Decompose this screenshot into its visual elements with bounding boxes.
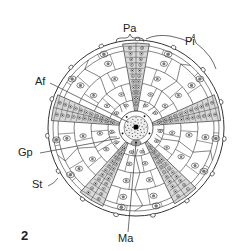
tubercle bbox=[145, 105, 147, 107]
periproct-plate bbox=[141, 132, 142, 133]
tubercle bbox=[214, 137, 218, 141]
periproct-plate bbox=[128, 135, 129, 136]
pore bbox=[133, 92, 134, 93]
tubercle bbox=[162, 62, 165, 65]
periproct-plate bbox=[132, 119, 133, 120]
pore bbox=[79, 117, 80, 118]
periproct-plate bbox=[129, 132, 130, 133]
pore bbox=[148, 147, 149, 148]
periproct-plate bbox=[135, 121, 136, 122]
tubercle bbox=[69, 173, 73, 177]
tubercle bbox=[141, 151, 143, 153]
tubercle bbox=[82, 135, 85, 138]
pore bbox=[136, 104, 137, 105]
pore bbox=[161, 159, 162, 160]
tubercle bbox=[55, 138, 59, 142]
tubercle bbox=[120, 205, 124, 209]
pore bbox=[107, 119, 108, 120]
pore bbox=[59, 102, 60, 103]
genital-pore bbox=[144, 115, 146, 117]
periproct-plate bbox=[146, 127, 147, 128]
pore bbox=[185, 112, 186, 113]
pore bbox=[141, 53, 142, 54]
pore bbox=[172, 172, 173, 173]
pore bbox=[90, 119, 91, 120]
tubercle bbox=[107, 62, 110, 65]
periproct-plate bbox=[127, 125, 128, 126]
tubercle bbox=[144, 162, 146, 164]
pore bbox=[181, 119, 182, 120]
periproct-plate bbox=[144, 132, 145, 133]
tubercle bbox=[106, 105, 108, 107]
figure-number: 2 bbox=[21, 229, 28, 242]
pore bbox=[175, 191, 176, 192]
pore bbox=[91, 187, 92, 188]
periproct-plate bbox=[132, 127, 133, 128]
periproct-plate bbox=[142, 126, 143, 127]
tubercle bbox=[148, 178, 151, 181]
periproct-plate bbox=[130, 124, 131, 125]
pore bbox=[56, 114, 57, 115]
label-ma: Ma bbox=[118, 233, 133, 244]
pore bbox=[105, 183, 106, 184]
periproct-plate bbox=[143, 135, 144, 136]
tubercle bbox=[65, 137, 68, 140]
pore bbox=[102, 117, 103, 118]
pore bbox=[96, 115, 97, 116]
pore bbox=[64, 104, 65, 105]
periproct-plate bbox=[143, 128, 144, 129]
tubercle bbox=[164, 105, 166, 107]
pore bbox=[175, 120, 176, 121]
tubercle bbox=[102, 52, 106, 56]
tubercle bbox=[79, 84, 82, 87]
pore bbox=[133, 87, 134, 88]
pore bbox=[95, 183, 96, 184]
periproct-plate bbox=[137, 137, 138, 138]
st-leader bbox=[48, 178, 58, 186]
pore bbox=[141, 47, 142, 48]
pore bbox=[209, 115, 210, 116]
pore bbox=[186, 118, 187, 119]
pore bbox=[183, 184, 184, 185]
pore bbox=[102, 174, 103, 175]
pore bbox=[140, 59, 141, 60]
pore bbox=[138, 81, 139, 82]
pore bbox=[170, 121, 171, 122]
spine-base bbox=[45, 133, 49, 138]
tubercle bbox=[128, 163, 130, 165]
genital-pore bbox=[126, 116, 128, 118]
tubercle bbox=[122, 195, 125, 198]
pore bbox=[157, 162, 158, 163]
pore bbox=[168, 167, 169, 168]
pore bbox=[132, 70, 133, 71]
tubercle bbox=[120, 93, 122, 95]
tubercle bbox=[177, 94, 180, 97]
tubercle bbox=[188, 134, 191, 137]
pore bbox=[111, 173, 112, 174]
pore bbox=[129, 47, 130, 48]
pore bbox=[67, 115, 68, 116]
pore bbox=[115, 156, 116, 157]
spine-base bbox=[150, 213, 155, 217]
pore bbox=[172, 186, 173, 187]
periproct-plate bbox=[137, 133, 138, 134]
pore bbox=[101, 193, 102, 194]
tubercle bbox=[113, 78, 116, 81]
pore bbox=[131, 64, 132, 65]
tubercle bbox=[155, 112, 157, 114]
pore bbox=[166, 176, 167, 177]
pore bbox=[108, 178, 109, 179]
pore bbox=[196, 108, 197, 109]
pore bbox=[91, 113, 92, 114]
pore bbox=[86, 112, 87, 113]
periproct-plate bbox=[132, 136, 133, 137]
tubercle bbox=[190, 84, 193, 87]
pore bbox=[154, 150, 155, 151]
tubercle bbox=[70, 77, 74, 81]
label-af: Af bbox=[35, 76, 45, 87]
pore bbox=[132, 75, 133, 76]
periproct-plate bbox=[132, 133, 133, 134]
periproct-plate bbox=[140, 129, 141, 130]
urchin-test-diagram bbox=[0, 0, 232, 251]
periproct-plate bbox=[140, 135, 141, 136]
